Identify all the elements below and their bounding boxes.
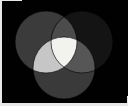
venn-canvas [0,0,128,106]
venn-diagram-svg [0,0,128,106]
venn-figure [0,0,128,106]
figure-bottom-border [0,103,128,106]
figure-top-border [0,0,22,1]
figure-left-border [0,0,2,106]
figure-right-border [127,96,128,106]
